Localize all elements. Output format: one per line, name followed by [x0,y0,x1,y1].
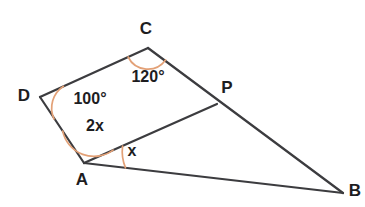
angle-label-x-at-A: x [128,142,137,159]
geometry-diagram: C D P A B 120° 100° 2x x [0,0,365,207]
segment-A-B [84,163,343,193]
angle-label-at-C: 120° [131,68,164,85]
diagram-canvas: C D P A B 120° 100° 2x x [0,0,365,207]
angle-label-at-D: 100° [73,90,106,107]
vertex-label-P: P [221,78,232,97]
vertex-label-D: D [18,86,30,105]
vertex-label-C: C [140,19,152,38]
angle-arc-x-at-A [122,146,125,168]
vertex-label-A: A [76,170,88,189]
angle-label-2x-at-A: 2x [86,117,104,134]
angle-labels-group: 120° 100° 2x x [73,68,164,159]
vertex-label-B: B [349,181,361,200]
vertex-labels-group: C D P A B [18,19,361,200]
